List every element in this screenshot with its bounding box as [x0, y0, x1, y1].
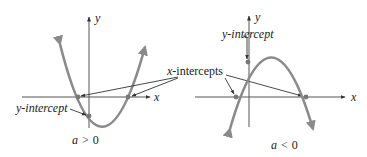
left-y-intercept-point [87, 114, 92, 119]
right-x-intercept-point-1 [234, 95, 239, 100]
right-y-intercept-point [246, 60, 251, 65]
left-x-intercept-point-1 [76, 95, 81, 100]
left-panel: y x y-intercept a>0 [15, 11, 160, 147]
left-y-axis-label: y [94, 11, 101, 25]
left-condition-label: a>0 [72, 133, 99, 147]
left-y-intercept-label: y-intercept [15, 101, 68, 115]
x-intercepts-annotation: x-intercepts [81, 64, 302, 96]
x-intercepts-label: x-intercepts [166, 64, 223, 78]
right-panel: y x y-intercept a<0 [195, 10, 357, 152]
left-parabola-curve [60, 44, 145, 127]
parabola-diagram: y x y-intercept a>0 x-intercepts y x y-i… [0, 0, 367, 157]
right-x-axis-label: x [350, 90, 357, 104]
x-intercepts-pointer-right-1 [225, 78, 234, 94]
left-x-intercept-point-2 [126, 95, 131, 100]
right-y-intercept-label: y-intercept [221, 27, 274, 41]
left-x-axis-label: x [153, 90, 160, 104]
x-intercepts-pointer-right-2 [226, 75, 302, 96]
right-x-intercept-point-2 [304, 95, 309, 100]
right-y-axis-label: y [254, 10, 261, 24]
right-parabola-curve [230, 58, 313, 130]
right-condition-label: a<0 [271, 138, 298, 152]
